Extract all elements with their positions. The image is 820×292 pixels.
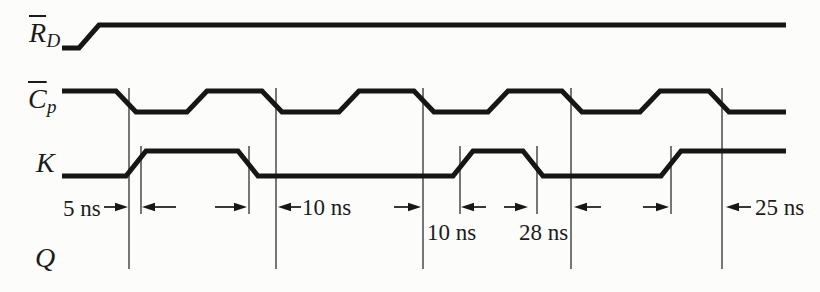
cp-letter: C <box>28 83 47 114</box>
arrowhead-left <box>461 203 474 212</box>
cp-subscript: p <box>47 96 57 117</box>
time-label-28ns: 28 ns <box>519 221 568 244</box>
arrowhead-left <box>278 203 291 212</box>
time-label-25ns: 25 ns <box>755 196 804 219</box>
signal-label-cp: Cp <box>28 85 56 113</box>
rd-subscript: D <box>46 30 60 51</box>
q-letter: Q <box>35 242 55 273</box>
signal-label-q: Q <box>35 244 55 272</box>
arrowhead-left <box>574 203 587 212</box>
rd-letter: R <box>29 17 46 48</box>
waveform-cp <box>62 91 786 112</box>
arrowhead-right <box>408 203 421 212</box>
arrowhead-left <box>726 203 739 212</box>
waveform-k <box>62 151 786 176</box>
signal-label-rd: RD <box>29 19 60 47</box>
waveform-rd <box>62 25 786 48</box>
time-label-10ns-b: 10 ns <box>427 221 476 244</box>
waveform-canvas <box>0 0 820 292</box>
k-letter: K <box>36 147 55 178</box>
arrowhead-right <box>115 203 128 212</box>
timing-diagram-figure: RD Cp K Q 5 ns 10 ns 10 ns 28 ns 25 ns <box>0 0 820 292</box>
arrowhead-right <box>515 203 528 212</box>
time-label-10ns-a: 10 ns <box>302 196 351 219</box>
time-label-5ns: 5 ns <box>63 197 101 220</box>
arrowhead-right <box>656 203 669 212</box>
arrowhead-left <box>142 203 155 212</box>
arrowhead-right <box>234 203 247 212</box>
signal-label-k: K <box>36 149 55 177</box>
